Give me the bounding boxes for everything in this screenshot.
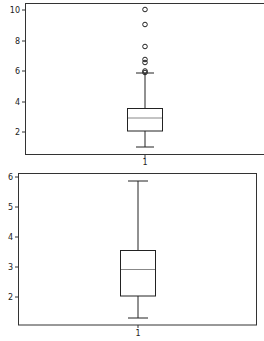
top-ytick-10: 10 <box>10 6 20 15</box>
bottom-boxplot: 6 5 4 3 2 1 <box>8 173 257 338</box>
top-ytick-2: 2 <box>15 128 20 137</box>
bottom-xtick-1: 1 <box>135 329 140 338</box>
top-ytick-8: 8 <box>15 37 20 46</box>
bottom-ytick-4: 4 <box>8 233 13 242</box>
top-ytick-6: 6 <box>15 67 20 76</box>
top-boxplot: 10 8 6 4 2 1 <box>10 4 264 168</box>
figure: 10 8 6 4 2 1 <box>0 0 264 341</box>
bottom-ytick-6: 6 <box>8 173 13 182</box>
bottom-ytick-3: 3 <box>8 263 13 272</box>
outlier-marker <box>143 7 148 12</box>
bottom-iqr-box <box>121 251 156 297</box>
top-xtick-1: 1 <box>142 158 147 167</box>
bottom-ytick-5: 5 <box>8 203 13 212</box>
bottom-ytick-2: 2 <box>8 293 13 302</box>
bottom-y-axis: 6 5 4 3 2 <box>8 173 18 302</box>
outlier-marker <box>143 44 148 49</box>
top-iqr-box <box>128 109 163 132</box>
top-ytick-4: 4 <box>15 98 20 107</box>
top-outliers <box>143 7 148 75</box>
outlier-marker <box>143 22 148 27</box>
top-y-axis: 10 8 6 4 2 <box>10 6 25 137</box>
outlier-marker <box>143 60 148 65</box>
